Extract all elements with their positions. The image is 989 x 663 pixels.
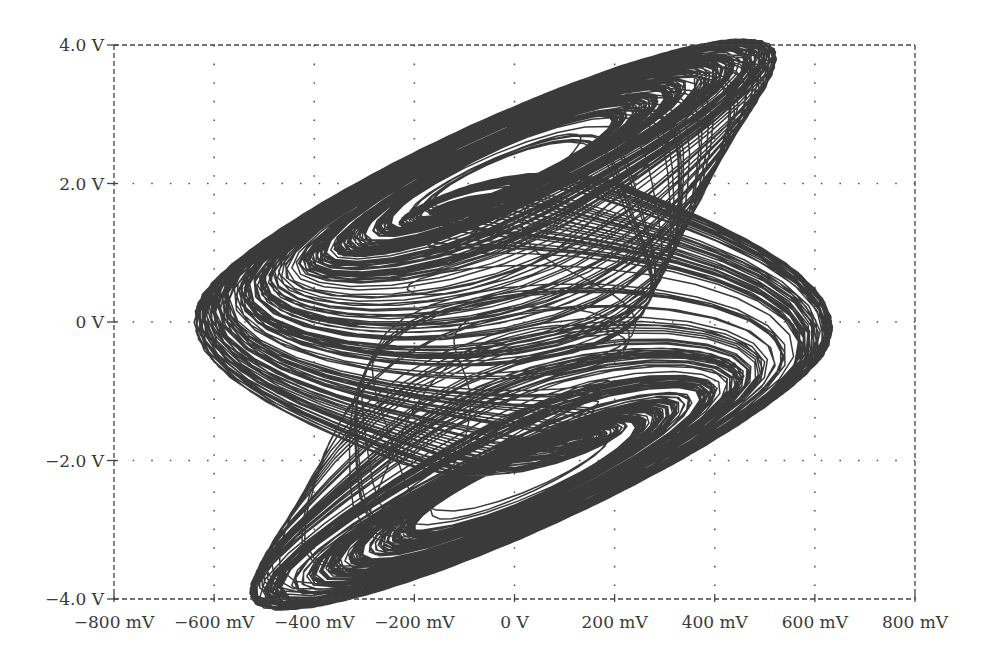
x-axis: −800 mV−600 mV−400 mV−200 mV0 V200 mV400… <box>74 594 949 632</box>
x-tick-label: −800 mV <box>74 612 155 632</box>
x-tick-label: 400 mV <box>682 612 749 632</box>
phase-portrait-chart: −800 mV−600 mV−400 mV−200 mV0 V200 mV400… <box>0 0 989 663</box>
y-tick-label: 4.0 V <box>59 35 104 55</box>
x-tick-label: −600 mV <box>174 612 255 632</box>
attractor-curve <box>194 39 832 610</box>
y-tick-label: −2.0 V <box>45 451 105 471</box>
x-tick-label: 800 mV <box>882 612 949 632</box>
x-tick-label: 200 mV <box>582 612 649 632</box>
y-tick-label: −4.0 V <box>45 589 105 609</box>
y-tick-label: 0 V <box>76 312 105 332</box>
x-tick-label: 600 mV <box>782 612 849 632</box>
y-axis: 4.0 V2.0 V0 V−2.0 V−4.0 V <box>45 35 118 609</box>
attractor-trajectory <box>194 39 832 610</box>
x-tick-label: −400 mV <box>274 612 355 632</box>
y-tick-label: 2.0 V <box>59 174 104 194</box>
x-tick-label: 0 V <box>500 612 529 632</box>
x-tick-label: −200 mV <box>374 612 455 632</box>
